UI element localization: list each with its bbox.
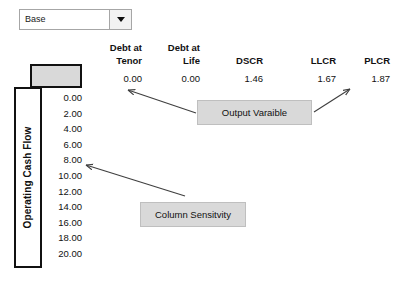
arrow-to-debt-at-tenor: [128, 90, 196, 113]
annotation-arrows: [0, 0, 394, 281]
diagram-canvas: Base Debt at Debt at Tenor Life DSCR LLC…: [0, 0, 394, 281]
arrow-to-cash-flow-column: [86, 165, 185, 196]
arrow-to-plcr: [314, 89, 350, 112]
